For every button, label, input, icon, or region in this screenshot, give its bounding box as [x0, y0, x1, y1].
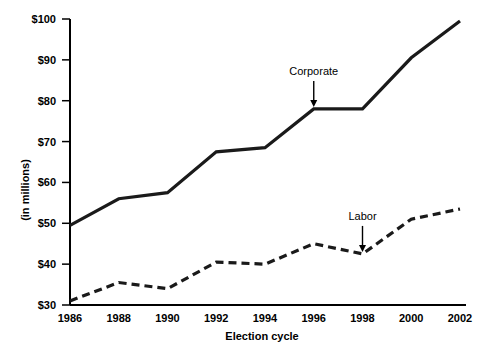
x-tick-label: 1998: [350, 312, 374, 324]
x-axis: 198619881990199219941996199820002002 Ele…: [58, 305, 472, 342]
line-chart: $30$40$50$60$70$80$90$100 (in millions) …: [0, 0, 479, 353]
x-axis-tick-labels: 198619881990199219941996199820002002: [58, 312, 472, 324]
y-tick-label: $50: [38, 217, 56, 229]
y-tick-label: $30: [38, 299, 56, 311]
y-axis-tick-labels: $30$40$50$60$70$80$90$100: [32, 13, 56, 311]
x-tick-label: 2002: [448, 312, 472, 324]
x-tick-label: 1986: [58, 312, 82, 324]
y-tick-label: $90: [38, 54, 56, 66]
y-tick-label: $40: [38, 258, 56, 270]
x-tick-label: 2000: [399, 312, 423, 324]
annotation-label-corporate: Corporate: [289, 65, 338, 77]
y-tick-label: $70: [38, 136, 56, 148]
series-line-labor: [70, 209, 460, 301]
y-axis: $30$40$50$60$70$80$90$100 (in millions): [19, 13, 70, 311]
annotation-arrowhead-corporate: [310, 100, 317, 107]
chart-container: $30$40$50$60$70$80$90$100 (in millions) …: [0, 0, 479, 353]
y-tick-label: $100: [32, 13, 56, 25]
annotation-label-labor: Labor: [348, 210, 376, 222]
chart-annotations: CorporateLabor: [289, 65, 377, 252]
x-tick-label: 1990: [155, 312, 179, 324]
x-axis-title: Election cycle: [225, 330, 298, 342]
x-tick-label: 1988: [107, 312, 131, 324]
series-line-corporate: [70, 21, 460, 225]
data-series-group: [70, 21, 460, 301]
y-tick-label: $80: [38, 95, 56, 107]
x-tick-label: 1996: [302, 312, 326, 324]
x-tick-label: 1994: [253, 312, 278, 324]
y-axis-ticks: [62, 19, 70, 305]
y-tick-label: $60: [38, 176, 56, 188]
y-axis-title: (in millions): [19, 159, 31, 221]
annotation-arrowhead-labor: [359, 245, 366, 252]
x-tick-label: 1992: [204, 312, 228, 324]
